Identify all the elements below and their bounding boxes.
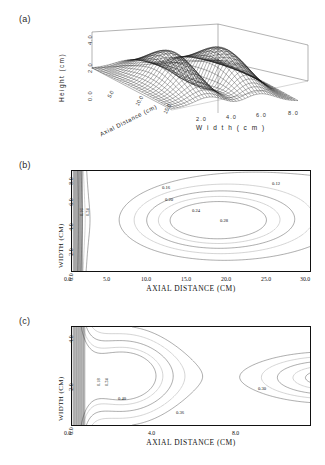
panel-c-contour-label-2: 0.40 xyxy=(118,396,126,401)
panel-a-x-tick-2: 6.0 xyxy=(256,112,267,118)
panel-b-x-axis-label: AXIAL DISTANCE (CM) xyxy=(111,284,271,293)
panel-c-contour-label-3: 0.36 xyxy=(176,410,184,415)
panel-c-x-axis-label: AXIAL DISTANCE (CM) xyxy=(111,438,271,447)
panel-c-x-tick-1: 4.0 xyxy=(148,430,155,436)
panel-a: (a) Height (cm) 4.0 2.0 0.0 xyxy=(0,0,325,150)
panel-c-contour-label-1: 0.24 xyxy=(104,378,109,386)
panel-b-y-axis-label: WIDTH (CM) xyxy=(57,223,65,268)
panel-a-x-tick-1: 4.0 xyxy=(226,114,237,120)
panel-c-tag: (c) xyxy=(19,316,30,326)
panel-b-y-tick-1: 2.0 xyxy=(68,245,74,259)
panel-b-tag: (b) xyxy=(19,160,31,170)
panel-c: (c) WIDTH (CM) 0.18 0.24 0.40 0.36 0.30 … xyxy=(0,308,325,465)
panel-b-contour-label-3: 0.28 xyxy=(220,218,228,223)
panel-b-y-tick-3: 6.0 xyxy=(68,195,74,209)
panel-a-tag: (a) xyxy=(19,14,31,24)
panel-b-contour-label-2: 0.24 xyxy=(192,208,200,213)
panel-c-y-tick-2: 4.0 xyxy=(68,332,74,346)
panel-c-contour-label-0: 0.18 xyxy=(96,378,101,386)
panel-a-x-axis-label: W i d t h ( c m ) xyxy=(196,124,266,131)
panel-b-x-tick-4: 20.0 xyxy=(221,276,231,282)
panel-b-contour-label-5: 0.16 xyxy=(79,208,84,216)
panel-b-x-tick-5: 25.0 xyxy=(261,276,271,282)
panel-b-contour-label-4: 0.12 xyxy=(272,181,280,186)
panel-c-x-tick-0: 0.0 xyxy=(64,430,71,436)
panel-b-x-tick-6: 30.0 xyxy=(300,276,310,282)
panel-b: (b) WIDTH (CM) 0.16 0.20 0.24 0.28 0.12 … xyxy=(0,150,325,308)
panel-b-contour-label-6: 0.24 xyxy=(85,208,90,216)
panel-b-contour-label-0: 0.16 xyxy=(162,185,170,190)
panel-b-x-tick-0: 0.0 xyxy=(64,276,71,282)
panel-a-x-tick-0: 2.0 xyxy=(196,116,207,122)
panel-c-contour-label-4: 0.30 xyxy=(258,386,266,391)
panel-b-contour-label-1: 0.20 xyxy=(165,197,173,202)
panel-b-y-tick-4: 8.0 xyxy=(68,174,74,188)
panel-b-x-tick-1: 5.0 xyxy=(103,276,110,282)
panel-c-y-tick-1: 2.0 xyxy=(68,380,74,394)
panel-a-x-tick-3: 8.0 xyxy=(288,110,299,116)
panel-b-x-tick-2: 10.0 xyxy=(141,276,151,282)
panel-b-x-tick-3: 15.0 xyxy=(181,276,191,282)
panel-c-plot-area xyxy=(71,326,311,426)
panel-c-y-axis-label: WIDTH (CM) xyxy=(57,376,65,421)
panel-b-y-tick-2: 4.0 xyxy=(68,220,74,234)
panel-c-x-tick-2: 8.0 xyxy=(232,430,239,436)
